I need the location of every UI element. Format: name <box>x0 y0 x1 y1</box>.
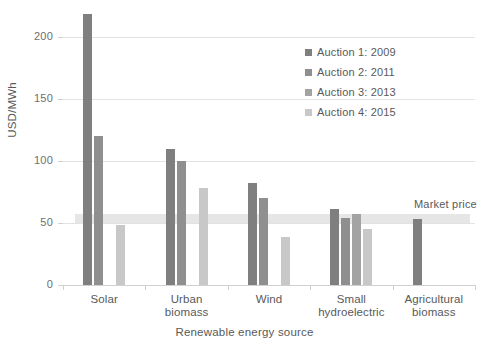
x-tick-mark <box>475 285 476 290</box>
x-category-label: Solar <box>63 293 145 306</box>
bar <box>83 14 92 285</box>
legend-swatch-icon <box>305 69 312 76</box>
x-category-label-line: Small <box>310 293 392 306</box>
legend-label: Auction 1: 2009 <box>317 46 396 58</box>
y-axis-title: USD/MWh <box>6 50 18 170</box>
y-tick-label: 50 <box>19 217 53 228</box>
plot-area <box>63 12 475 285</box>
x-category-label: Wind <box>228 293 310 306</box>
legend-swatch-icon <box>305 109 312 116</box>
bar <box>341 218 350 285</box>
x-axis-title: Renewable energy source <box>0 326 489 338</box>
legend-label: Auction 3: 2013 <box>317 86 396 98</box>
gridline <box>63 161 475 162</box>
x-category-label: Smallhydroelectric <box>310 293 392 319</box>
y-tick-label: 100 <box>19 155 53 166</box>
bar <box>248 183 257 285</box>
bar <box>166 149 175 286</box>
legend-item[interactable]: Auction 3: 2013 <box>305 82 396 102</box>
x-category-label-line: Solar <box>63 293 145 306</box>
legend-item[interactable]: Auction 4: 2015 <box>305 102 396 122</box>
x-category-label-line: Urban <box>145 293 227 306</box>
legend-item[interactable]: Auction 1: 2009 <box>305 42 396 62</box>
x-tick-mark <box>310 285 311 290</box>
x-tick-mark <box>63 285 64 290</box>
x-category-label-line: biomass <box>145 306 227 319</box>
y-tick-label: 0 <box>19 279 53 290</box>
x-axis-line <box>63 285 475 286</box>
bar <box>177 161 186 285</box>
bar <box>363 229 372 285</box>
bar-chart: USD/MWh 050100150200 Market price SolarU… <box>0 0 489 347</box>
x-tick-mark <box>228 285 229 290</box>
bar <box>413 219 422 285</box>
bar <box>199 188 208 285</box>
bar <box>259 198 268 285</box>
x-tick-mark <box>145 285 146 290</box>
x-category-label: Urbanbiomass <box>145 293 227 319</box>
gridline <box>63 99 475 100</box>
gridline <box>63 37 475 38</box>
legend-label: Auction 4: 2015 <box>317 106 396 118</box>
bar <box>352 214 361 285</box>
x-category-label: Agriculturalbiomass <box>393 293 475 319</box>
legend-swatch-icon <box>305 49 312 56</box>
bar <box>94 136 103 285</box>
x-category-label-line: Wind <box>228 293 310 306</box>
legend-label: Auction 2: 2011 <box>317 66 395 78</box>
x-category-label-line: biomass <box>393 306 475 319</box>
chart-legend: Auction 1: 2009Auction 2: 2011Auction 3:… <box>305 42 396 122</box>
y-tick-label: 200 <box>19 31 53 42</box>
legend-item[interactable]: Auction 2: 2011 <box>305 62 396 82</box>
x-tick-mark <box>393 285 394 290</box>
y-tick-label: 150 <box>19 93 53 104</box>
market-price-band <box>75 214 470 223</box>
bar <box>281 237 290 285</box>
legend-swatch-icon <box>305 89 312 96</box>
x-category-label-line: Agricultural <box>393 293 475 306</box>
market-price-label: Market price <box>414 198 477 210</box>
bar <box>330 209 339 285</box>
x-category-label-line: hydroelectric <box>310 306 392 319</box>
bar <box>116 225 125 285</box>
